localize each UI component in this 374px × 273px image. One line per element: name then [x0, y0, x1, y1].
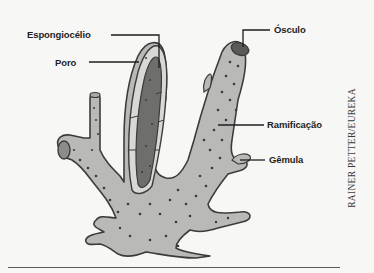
label-gemula: Gêmula: [269, 154, 303, 165]
label-espongiocelio: Espongiocélio: [27, 29, 91, 40]
thin-tube-opening: [90, 93, 100, 98]
image-credit: RAINER PETTER/EUREKA: [347, 88, 357, 208]
bottom-divider: [8, 267, 340, 268]
leader-osculo: [243, 30, 270, 47]
label-poro: Poro: [55, 57, 76, 68]
label-ramificacao: Ramificação: [267, 119, 322, 130]
gemmule-shape: [232, 154, 250, 164]
figure-canvas: Espongiocélio Poro Ósculo Ramificação Gê…: [0, 0, 374, 273]
side-opening: [58, 141, 70, 159]
sponge-illustration: [0, 0, 374, 273]
label-osculo: Ósculo: [274, 24, 306, 35]
